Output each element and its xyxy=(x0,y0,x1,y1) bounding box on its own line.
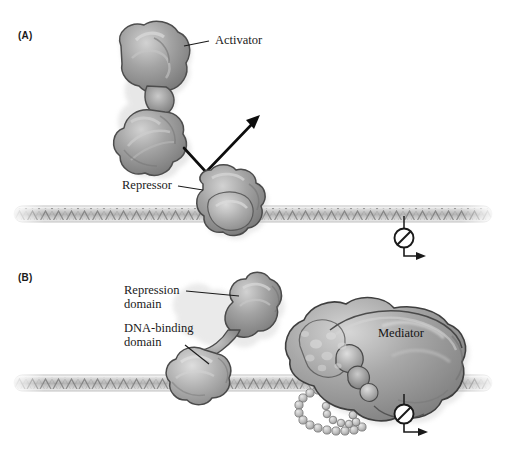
panel-label-a: (A) xyxy=(18,30,32,41)
figure-graphics xyxy=(0,0,505,451)
panel-label-b: (B) xyxy=(18,272,32,283)
callout-repression-domain: Repression domain xyxy=(124,284,180,311)
leader-repressor xyxy=(178,186,203,190)
callout-activator: Activator xyxy=(215,34,262,48)
figure-canvas: (A) (B) Activator Repressor Repression d… xyxy=(0,0,505,451)
callout-repressor: Repressor xyxy=(122,179,172,193)
callout-dna-binding-domain: DNA-binding domain xyxy=(124,322,193,349)
callout-mediator: Mediator xyxy=(378,327,424,341)
repressor-protein-panel-a xyxy=(197,165,268,240)
activator-protein xyxy=(114,21,192,179)
exclusion-arrow xyxy=(184,115,260,172)
mediator-complex xyxy=(286,298,470,426)
